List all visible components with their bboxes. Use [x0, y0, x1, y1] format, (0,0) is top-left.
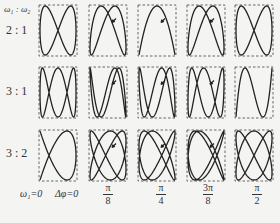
phase-pi-over-2: π2 — [252, 183, 262, 206]
direction-arrow-icon — [161, 144, 165, 148]
lissajous-curve — [40, 131, 76, 180]
lissajous-cell — [89, 67, 127, 118]
lissajous-cell — [138, 130, 176, 181]
lissajous-cell — [39, 67, 77, 118]
lissajous-cell — [187, 5, 225, 56]
lissajous-cell — [39, 5, 77, 56]
lissajous-cell — [138, 5, 176, 56]
phase-zero-label: Δφ=0 — [55, 188, 78, 199]
lissajous-curve — [139, 131, 175, 180]
row-label-2-1: 2 : 1 — [6, 23, 27, 38]
lissajous-cell — [187, 67, 225, 118]
row-label-3-1: 3 : 1 — [6, 84, 27, 99]
dashed-bounding-box — [187, 67, 225, 118]
lissajous-cell — [89, 130, 127, 181]
lissajous-curve — [139, 6, 175, 55]
lissajous-cell — [138, 67, 176, 118]
phase-pi-over-8: π8 — [103, 183, 113, 206]
lissajous-curve — [236, 6, 272, 55]
lissajous-cell — [235, 5, 273, 56]
row-label-3-2: 3 : 2 — [6, 146, 27, 161]
direction-arrow-icon — [112, 144, 116, 148]
lissajous-curve — [236, 68, 272, 117]
lissajous-curve — [139, 68, 175, 117]
lissajous-curve — [90, 6, 126, 55]
direction-arrow-icon — [112, 19, 116, 23]
lissajous-curve — [40, 68, 76, 117]
dashed-bounding-box — [187, 130, 225, 181]
lissajous-curve — [90, 68, 126, 117]
lissajous-cell — [235, 130, 273, 181]
phase-3pi-over-8: 3π8 — [203, 183, 213, 206]
direction-arrow-icon — [161, 19, 165, 23]
dashed-bounding-box — [89, 130, 127, 181]
ratio-header: ω₁ : ω₂ — [4, 4, 30, 14]
lissajous-cell — [89, 5, 127, 56]
lissajous-cell — [187, 130, 225, 181]
lissajous-curve — [188, 131, 224, 180]
lissajous-cell — [235, 67, 273, 118]
lissajous-curve — [188, 68, 224, 117]
lissajous-curve — [90, 131, 126, 180]
lissajous-curve — [236, 131, 272, 180]
phase-pi-over-4: π4 — [156, 183, 166, 206]
lissajous-curve — [188, 6, 224, 55]
lissajous-curve — [40, 6, 76, 55]
dashed-bounding-box — [89, 67, 127, 118]
lissajous-cell — [39, 130, 77, 181]
direction-arrow-icon — [210, 19, 214, 23]
omega-label: ω₁=0 — [20, 188, 42, 199]
